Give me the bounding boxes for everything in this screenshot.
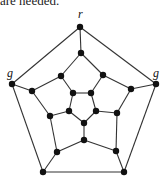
graph-edge <box>91 75 103 93</box>
graph-vertex <box>113 148 119 154</box>
graph-edge <box>57 140 84 152</box>
graph-edge <box>32 76 61 91</box>
graph-vertex <box>121 169 127 175</box>
graph-vertex <box>9 81 15 87</box>
graph-vertex <box>40 169 46 175</box>
graph-edge <box>103 75 131 89</box>
graph-vertex <box>93 108 99 114</box>
graph-edge <box>81 53 103 75</box>
graph-edges <box>12 27 156 172</box>
vertex-label: g <box>153 66 159 80</box>
graph-nodes <box>9 24 159 175</box>
graph-edge <box>12 27 80 84</box>
graph-vertex <box>78 50 84 56</box>
graph-vertex <box>66 108 72 114</box>
graph-vertex <box>153 81 159 87</box>
dodecahedron-graph: rgg <box>0 0 166 182</box>
graph-vertex <box>70 90 76 96</box>
graph-vertex <box>88 90 94 96</box>
graph-edge <box>131 84 156 89</box>
graph-edge <box>32 91 50 116</box>
graph-edge <box>43 152 57 172</box>
graph-vertex <box>81 120 87 126</box>
graph-vertex <box>81 137 87 143</box>
graph-vertex <box>100 72 106 78</box>
vertex-label: g <box>7 66 13 80</box>
graph-edge <box>50 116 57 152</box>
graph-edge <box>116 113 117 151</box>
graph-edge <box>116 151 124 172</box>
graph-edge <box>84 140 116 151</box>
graph-vertex <box>128 86 134 92</box>
graph-edge <box>61 53 81 76</box>
graph-edge <box>12 84 43 172</box>
graph-edge <box>80 27 156 84</box>
graph-edge <box>80 27 81 53</box>
graph-vertex <box>29 88 35 94</box>
graph-edge <box>117 89 131 113</box>
graph-vertex <box>58 73 64 79</box>
vertex-label: r <box>78 7 83 21</box>
graph-vertex <box>114 110 120 116</box>
graph-edge <box>124 84 156 172</box>
graph-vertex <box>47 113 53 119</box>
graph-vertex <box>54 149 60 155</box>
graph-vertex <box>77 24 83 30</box>
